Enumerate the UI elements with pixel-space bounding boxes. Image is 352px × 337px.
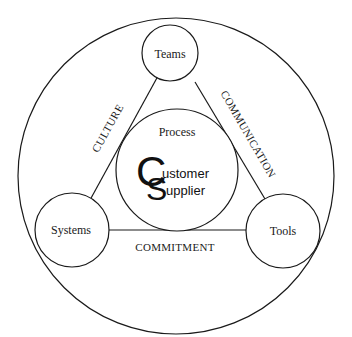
logo-word-customer: ustomer bbox=[162, 166, 210, 181]
logo-word-supplier: upplier bbox=[166, 183, 206, 198]
systems-label: Systems bbox=[51, 223, 91, 237]
diagram-canvas: Teams Systems Tools Process CULTURE COMM… bbox=[0, 0, 352, 337]
commitment-label: COMMITMENT bbox=[135, 241, 214, 253]
tools-label: Tools bbox=[270, 224, 297, 238]
process-label: Process bbox=[159, 125, 196, 139]
teams-label: Teams bbox=[154, 47, 185, 61]
